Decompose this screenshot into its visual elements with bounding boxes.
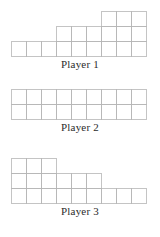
unit-square [11, 189, 26, 204]
unit-square [116, 27, 131, 42]
unit-square [101, 105, 116, 120]
unit-square [131, 12, 146, 27]
unit-square [41, 42, 56, 57]
unit-square [131, 189, 146, 204]
unit-square [86, 90, 101, 105]
unit-square [26, 42, 41, 57]
unit-square [41, 105, 56, 120]
player-1-grid-svg [0, 10, 160, 58]
player-3-grid-diagram [0, 155, 160, 205]
unit-square [101, 27, 116, 42]
unit-square [26, 105, 41, 120]
unit-square [26, 90, 41, 105]
unit-square [56, 90, 71, 105]
player-3-grid-svg [0, 155, 160, 205]
unit-square [116, 105, 131, 120]
unit-square [56, 174, 71, 189]
unit-square [41, 174, 56, 189]
unit-square [116, 12, 131, 27]
unit-square [26, 159, 41, 174]
unit-square [41, 90, 56, 105]
unit-square [86, 42, 101, 57]
unit-square [41, 159, 56, 174]
unit-square [56, 27, 71, 42]
player-chart-group: Player 3 [0, 155, 160, 218]
unit-square [71, 105, 86, 120]
unit-square [116, 42, 131, 57]
player-2-grid-svg [0, 88, 160, 121]
unit-square [56, 42, 71, 57]
unit-square [26, 189, 41, 204]
unit-square [101, 12, 116, 27]
player-1-grid-diagram [0, 10, 160, 58]
unit-square [101, 42, 116, 57]
unit-square [11, 42, 26, 57]
unit-square [41, 189, 56, 204]
unit-square [131, 90, 146, 105]
player-2-grid-diagram [0, 88, 160, 121]
unit-square [131, 42, 146, 57]
unit-square [11, 105, 26, 120]
unit-square [86, 27, 101, 42]
unit-square [86, 174, 101, 189]
unit-square [11, 174, 26, 189]
figure-canvas: Player 1 Player 2 Player 3 [0, 0, 160, 237]
unit-square [86, 105, 101, 120]
unit-square [56, 189, 71, 204]
unit-square [71, 27, 86, 42]
unit-square [26, 174, 41, 189]
player-2-label: Player 2 [0, 121, 160, 134]
unit-square [11, 159, 26, 174]
unit-square [71, 174, 86, 189]
unit-square [131, 27, 146, 42]
unit-square [71, 189, 86, 204]
unit-square [101, 189, 116, 204]
unit-square [86, 189, 101, 204]
unit-square [116, 90, 131, 105]
player-chart-group: Player 1 [0, 10, 160, 71]
unit-square [71, 42, 86, 57]
player-1-label: Player 1 [0, 58, 160, 71]
unit-square [71, 90, 86, 105]
player-3-label: Player 3 [0, 205, 160, 218]
unit-square [56, 105, 71, 120]
unit-square [101, 90, 116, 105]
player-chart-group: Player 2 [0, 88, 160, 134]
unit-square [116, 189, 131, 204]
unit-square [11, 90, 26, 105]
unit-square [131, 105, 146, 120]
